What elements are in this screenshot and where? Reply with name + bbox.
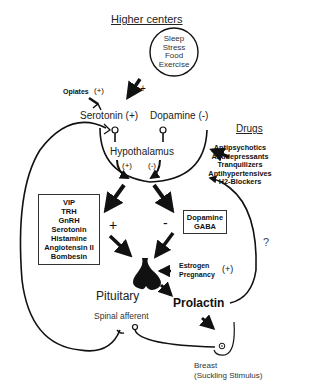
stimulator-item: Bombesin — [39, 252, 99, 261]
higher-centers-sign: + — [140, 84, 146, 94]
stimulator-item: VIP — [39, 198, 99, 207]
inhibitors-box: Dopamine GABA — [183, 210, 227, 234]
estrogen-sign: (+) — [222, 265, 233, 274]
inhibitor-item: GABA — [184, 222, 226, 231]
pituitary-gland — [133, 258, 161, 290]
higher-centers-arrow — [128, 79, 140, 97]
prolactin-label: Prolactin — [173, 297, 224, 309]
higher-centers-circle-text: Sleep Stress Food Exercise — [146, 35, 202, 69]
estrogen-label: Estrogen Pregnancy — [179, 262, 215, 279]
dopamine-label: Dopamine (-) — [150, 111, 208, 121]
stimulators-sign: + — [109, 218, 117, 232]
higher-centers-title: Higher centers — [111, 14, 183, 25]
pituitary-label: Pituitary — [96, 290, 139, 302]
drug-item: H2-Blockers — [200, 178, 280, 187]
stimulator-item: Angiotensin II — [39, 243, 99, 252]
stimulator-item: TRH — [39, 207, 99, 216]
hypothalamus-right-sign: (-) — [148, 162, 156, 170]
drugs-list: Antipsychotics Antidepressants Tranquili… — [200, 144, 280, 187]
hypothalamus-left-sign: (+) — [122, 162, 132, 170]
hypothalamus-label: Hypothalamus — [110, 147, 174, 157]
stimulators-box: VIP TRH GnRH Serotonin Histamine Angiote… — [38, 194, 100, 265]
inhibitor-item: Dopamine — [184, 213, 226, 222]
inhibitors-sign: - — [163, 216, 168, 230]
opiates-label: Opiates — [63, 88, 89, 95]
opiates-sign: (+) — [94, 87, 104, 95]
breast-outline — [214, 322, 234, 355]
circle-item-exercise: Exercise — [146, 61, 202, 70]
stimulator-item: Serotonin — [39, 225, 99, 234]
serotonin-label: Serotonin (+) — [80, 111, 138, 121]
prolactin-feedback-loop — [210, 178, 256, 303]
drugs-title: Drugs — [236, 124, 263, 134]
feedback-question: ? — [263, 237, 269, 248]
stimulator-item: Histamine — [39, 234, 99, 243]
spinal-afferent-label: Spinal afferent — [94, 312, 149, 321]
breast-label: Breast (Suckling Stimulus) — [194, 361, 262, 381]
stimulator-item: GnRH — [39, 216, 99, 225]
